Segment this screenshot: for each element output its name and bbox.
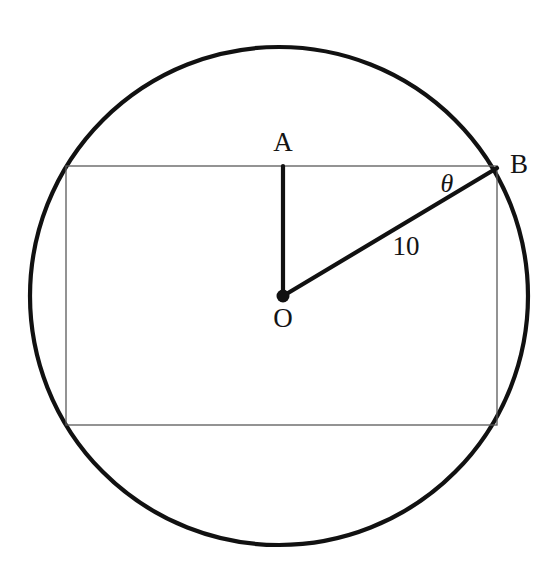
center-point-dot (277, 290, 290, 303)
point-label-a: A (273, 127, 293, 157)
geometry-diagram-canvas: A B O 10 θ (0, 0, 558, 574)
radius-length-label: 10 (393, 231, 420, 261)
point-label-o: O (273, 303, 293, 333)
angle-theta-label: θ (441, 169, 454, 198)
segment-o-to-b-radius (283, 168, 497, 296)
geometry-figure: A B O 10 θ (0, 0, 558, 574)
point-label-b: B (510, 149, 528, 179)
